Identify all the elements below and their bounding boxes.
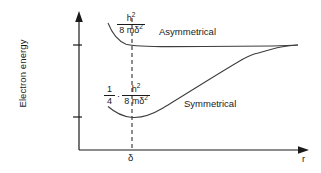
x-tick-label-delta: δ <box>128 152 133 163</box>
fraction-lower-denominator: 8 mδ2 <box>122 96 150 106</box>
fraction-lower-prefix: 1 4 <box>104 85 115 107</box>
upper-numerator-exponent: 2 <box>132 11 136 18</box>
fraction-upper-numerator: h2 <box>125 14 138 24</box>
lower-prefix-denominator: 4 <box>105 96 114 106</box>
y-axis-title: Electron energy <box>17 19 28 129</box>
fraction-lower-numerator: h2 <box>130 85 143 95</box>
curve-label-asymmetrical: Asymmetrical <box>159 26 216 37</box>
x-axis-label: r <box>302 153 305 164</box>
lower-numerator-exponent: 2 <box>137 82 141 89</box>
curve-label-symmetrical: Symmetrical <box>184 98 236 109</box>
y-axis <box>75 11 83 150</box>
y-tick-label-lower: 1 4 · h2 8 mδ2 <box>104 85 150 107</box>
fraction-upper-denominator: 8 mδ2 <box>117 25 145 35</box>
lower-prefix-numerator: 1 <box>105 85 114 95</box>
upper-denominator-exponent: 2 <box>139 23 143 30</box>
x-axis <box>79 146 309 154</box>
upper-denominator-prefix: 8 m <box>119 25 134 35</box>
fraction-lower: h2 8 mδ2 <box>122 85 150 107</box>
fraction-upper: h2 8 mδ2 <box>117 14 145 36</box>
lower-denominator-prefix: 8 m <box>124 96 139 106</box>
multiplication-dot: · <box>115 92 122 101</box>
electron-energy-plot-figure: Electron energy h2 8 mδ2 1 4 · h2 8 mδ2 … <box>0 0 321 173</box>
y-axis-arrowhead <box>75 11 83 22</box>
lower-denominator-exponent: 2 <box>144 94 148 101</box>
y-tick-label-upper: h2 8 mδ2 <box>117 14 145 36</box>
